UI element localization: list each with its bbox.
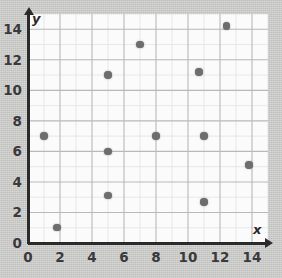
minor-gridlines: [28, 14, 268, 243]
data-point: [200, 198, 208, 206]
x-axis-arrow-icon: [265, 238, 273, 248]
x-tick-label: 0: [23, 249, 32, 265]
data-point: [245, 161, 253, 169]
y-tick-label: 8: [0, 113, 22, 129]
x-tick-label: 12: [211, 249, 230, 265]
data-point: [104, 148, 112, 156]
x-tick-label: 10: [179, 249, 198, 265]
data-point: [152, 132, 160, 140]
x-tick-label: 8: [151, 249, 160, 265]
y-axis-label: y: [32, 11, 40, 26]
x-tick-label: 14: [243, 249, 262, 265]
data-point: [104, 71, 112, 79]
x-tick-label: 6: [119, 249, 128, 265]
data-point: [200, 132, 208, 140]
data-point: [195, 68, 203, 76]
major-gridlines: [28, 14, 268, 243]
data-point: [104, 192, 112, 200]
y-tick-label: 14: [0, 21, 22, 37]
scatter-plot-figure: x y 02468101214 02468101214: [0, 0, 282, 278]
y-tick-label: 0: [0, 235, 22, 251]
y-tick-label: 4: [0, 174, 22, 190]
y-tick-label: 2: [0, 204, 22, 220]
data-point: [53, 224, 61, 232]
data-point: [40, 132, 48, 140]
data-point: [136, 41, 144, 49]
y-tick-label: 6: [0, 143, 22, 159]
x-axis-label: x: [253, 222, 261, 237]
x-axis-line: [28, 242, 266, 245]
y-tick-label: 10: [0, 82, 22, 98]
y-axis-line: [27, 14, 30, 244]
plot-area: [28, 14, 268, 243]
data-point: [223, 22, 231, 30]
x-tick-label: 2: [55, 249, 64, 265]
x-tick-label: 4: [87, 249, 96, 265]
y-tick-label: 12: [0, 52, 22, 68]
